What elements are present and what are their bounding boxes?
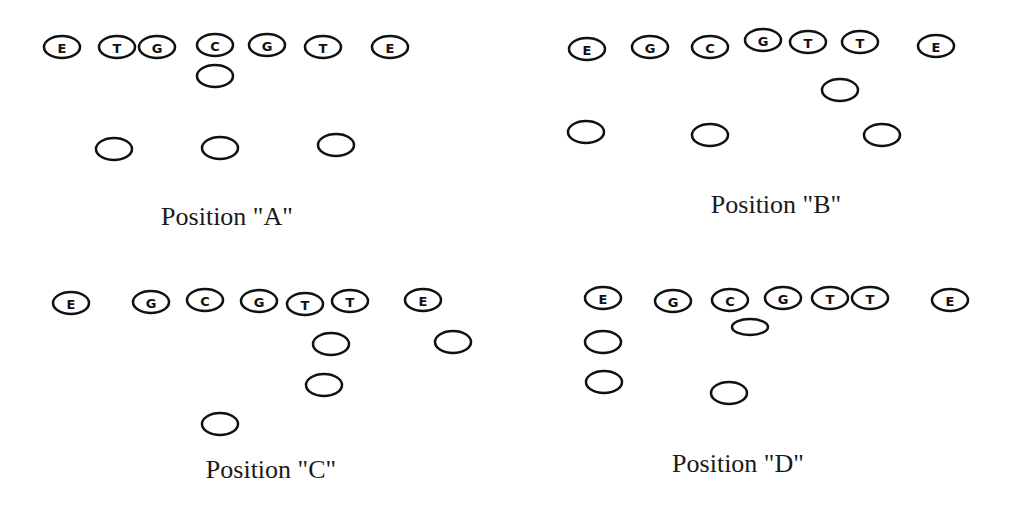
back-player-icon (732, 319, 768, 335)
back-player-icon (568, 121, 604, 143)
back-player-icon (96, 138, 132, 160)
player-label: T (346, 295, 355, 310)
player-label: T (856, 36, 865, 51)
player-label: T (826, 292, 835, 307)
back-player-icon (586, 371, 622, 393)
back-player-icon (822, 79, 858, 101)
player-label: G (152, 41, 163, 56)
formation-canvas: ETGCGTEEGCGTTEEGCGTTEEGCGTTE (0, 0, 1018, 509)
player-label: E (419, 294, 428, 309)
formation-b: EGCGTTE (568, 29, 954, 146)
lineman-end: E (44, 36, 80, 58)
player-label: G (146, 296, 157, 311)
player-label: E (58, 41, 67, 56)
lineman-tackle: T (812, 287, 848, 309)
lineman-guard: G (655, 290, 691, 312)
player-label: E (386, 41, 395, 56)
back-player-icon (435, 331, 471, 353)
formation-c: EGCGTTE (53, 289, 471, 435)
lineman-end: E (918, 35, 954, 57)
lineman-end: E (405, 289, 441, 311)
formation-a: ETGCGTE (44, 34, 408, 160)
player-label: T (804, 36, 813, 51)
lineman-center: C (197, 34, 233, 56)
back-player-icon (313, 333, 349, 355)
player-label: E (932, 40, 941, 55)
player-label: E (583, 43, 592, 58)
lineman-tackle: T (332, 290, 368, 312)
lineman-end: E (53, 292, 89, 314)
formation-diagrams: ETGCGTEEGCGTTEEGCGTTEEGCGTTE Position "A… (0, 0, 1018, 509)
formation-d: EGCGTTE (585, 287, 968, 404)
back-player-icon (202, 137, 238, 159)
player-label: G (262, 39, 273, 54)
lineman-tackle: T (99, 36, 135, 58)
back-player-icon (202, 413, 238, 435)
player-label: G (645, 41, 656, 56)
lineman-guard: G (765, 287, 801, 309)
lineman-end: E (372, 36, 408, 58)
lineman-guard: G (632, 36, 668, 58)
lineman-tackle: T (305, 36, 341, 58)
caption-position-b: Position "B" (711, 190, 841, 220)
player-label: T (113, 41, 122, 56)
player-label: E (599, 292, 608, 307)
lineman-end: E (569, 38, 605, 60)
back-player-icon (318, 134, 354, 156)
player-label: G (778, 292, 789, 307)
caption-position-a: Position "A" (161, 202, 293, 232)
back-player-icon (692, 124, 728, 146)
player-label: E (67, 297, 76, 312)
lineman-end: E (585, 287, 621, 309)
lineman-center: C (187, 289, 223, 311)
lineman-guard: G (241, 290, 277, 312)
lineman-tackle: T (852, 287, 888, 309)
back-player-icon (306, 374, 342, 396)
lineman-tackle: T (790, 31, 826, 53)
player-label: T (866, 292, 875, 307)
lineman-guard: G (139, 36, 175, 58)
player-label: C (725, 294, 735, 309)
lineman-end: E (932, 289, 968, 311)
player-label: E (946, 294, 955, 309)
player-label: C (200, 294, 210, 309)
player-label: G (758, 34, 769, 49)
lineman-tackle: T (842, 31, 878, 53)
lineman-guard: G (249, 34, 285, 56)
lineman-guard: G (745, 29, 781, 51)
lineman-center: C (692, 36, 728, 58)
back-player-icon (197, 65, 233, 87)
player-label: T (319, 41, 328, 56)
player-label: C (705, 41, 715, 56)
caption-position-c: Position "C" (206, 455, 336, 485)
caption-position-d: Position "D" (672, 449, 804, 479)
lineman-guard: G (133, 291, 169, 313)
player-label: G (668, 295, 679, 310)
back-player-icon (711, 382, 747, 404)
back-player-icon (585, 331, 621, 353)
player-label: C (210, 39, 220, 54)
back-player-icon (864, 124, 900, 146)
player-label: G (254, 295, 265, 310)
lineman-center: C (712, 289, 748, 311)
lineman-tackle: T (287, 293, 323, 315)
player-label: T (301, 298, 310, 313)
